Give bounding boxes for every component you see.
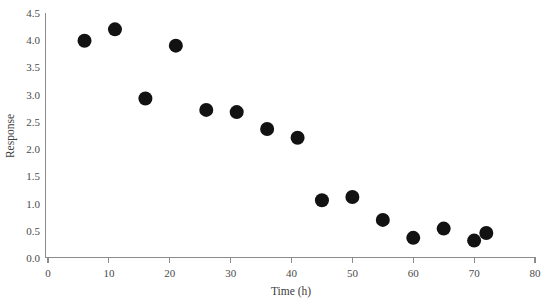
y-tick-label: 4.5 — [26, 7, 40, 19]
y-tick-label: 2.5 — [26, 116, 40, 128]
x-tick-label: 40 — [286, 267, 298, 279]
data-point — [315, 193, 329, 207]
data-point — [138, 91, 152, 105]
x-tick-label: 0 — [45, 267, 51, 279]
x-tick-label: 80 — [530, 267, 542, 279]
data-point — [169, 39, 183, 53]
x-tick-label: 70 — [469, 267, 481, 279]
data-point — [230, 105, 244, 119]
plot-area: 0.00.51.01.52.02.53.03.54.04.5 010203040… — [0, 0, 550, 306]
x-axis-tick-group: 01020304050607080 — [45, 258, 541, 279]
data-point — [291, 131, 305, 145]
data-point — [467, 234, 481, 248]
x-axis-title: Time (h) — [271, 285, 311, 298]
data-point — [376, 213, 390, 227]
data-point — [345, 190, 359, 204]
x-tick-label: 60 — [408, 267, 420, 279]
y-tick-label: 3.5 — [26, 61, 40, 73]
data-point — [199, 103, 213, 117]
data-points-group — [78, 22, 494, 247]
data-point — [406, 231, 420, 245]
y-tick-label: 0.0 — [26, 252, 40, 264]
data-point — [108, 22, 122, 36]
y-tick-label: 0.5 — [26, 225, 40, 237]
data-point — [437, 222, 451, 236]
y-axis-tick-group: 0.00.51.01.52.02.53.03.54.04.5 — [26, 7, 40, 264]
data-point — [479, 226, 493, 240]
scatter-chart: 0.00.51.01.52.02.53.03.54.04.5 010203040… — [0, 0, 550, 306]
data-point — [260, 122, 274, 136]
y-axis-title: Response — [4, 114, 17, 158]
x-tick-label: 10 — [103, 267, 115, 279]
y-tick-label: 1.5 — [26, 170, 40, 182]
y-tick-label: 2.0 — [26, 143, 40, 155]
x-tick-label: 20 — [164, 267, 176, 279]
y-tick-label: 1.0 — [26, 198, 40, 210]
x-tick-label: 50 — [347, 267, 359, 279]
y-tick-label: 4.0 — [26, 34, 40, 46]
data-point — [78, 34, 92, 48]
y-tick-label: 3.0 — [26, 89, 40, 101]
x-tick-label: 30 — [225, 267, 237, 279]
